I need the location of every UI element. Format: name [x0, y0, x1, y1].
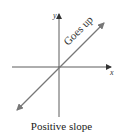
y-axis-label: y — [52, 11, 57, 20]
x-axis-label: x — [109, 68, 114, 77]
caption: Positive slope — [0, 120, 123, 132]
positive-slope-line — [17, 23, 104, 110]
line-annotation: Goes up — [61, 13, 96, 48]
slope-diagram: y x Goes up — [0, 0, 123, 136]
